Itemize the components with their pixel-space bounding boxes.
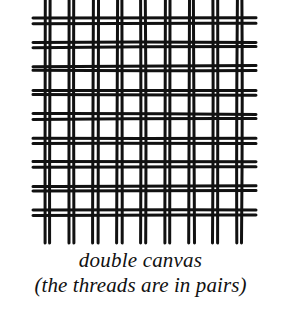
warp-thread — [165, 0, 166, 243]
warp-thread — [117, 0, 118, 243]
warp-thread — [193, 0, 194, 243]
figure-caption: double canvas (the threads are in pairs) — [0, 249, 281, 297]
double-canvas-illustration — [0, 0, 281, 250]
weave-diagram-page: double canvas (the threads are in pairs) — [0, 0, 281, 320]
warp-thread — [50, 0, 51, 243]
warp-thread — [189, 0, 190, 243]
warp-thread — [93, 0, 94, 243]
weave-svg — [0, 0, 281, 250]
warp-thread — [213, 0, 214, 243]
warp-thread — [242, 0, 243, 243]
warp-thread — [237, 0, 238, 243]
warp-thread — [145, 0, 146, 243]
caption-subtitle: (the threads are in pairs) — [0, 274, 281, 298]
caption-title: double canvas — [0, 249, 281, 273]
